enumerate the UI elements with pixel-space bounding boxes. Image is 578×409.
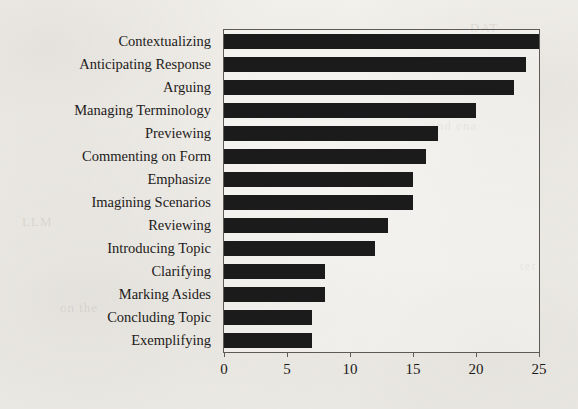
category-label: Concluding Topic	[107, 306, 211, 329]
bar	[224, 264, 325, 279]
x-axis-tick-label: 0	[220, 359, 228, 379]
category-label: Anticipating Response	[79, 53, 211, 76]
bar-row	[224, 306, 539, 329]
bar-row	[224, 53, 539, 76]
bar	[224, 57, 526, 72]
x-axis-tick-label: 10	[343, 359, 358, 379]
bar	[224, 80, 514, 95]
category-label: Arguing	[163, 76, 211, 99]
bar-row	[224, 283, 539, 306]
bar-row	[224, 329, 539, 352]
x-axis-tick-label: 20	[469, 359, 484, 379]
bar-row	[224, 214, 539, 237]
x-axis-tick-label: 25	[532, 359, 547, 379]
bar	[224, 126, 438, 141]
x-axis-tick	[287, 352, 288, 357]
bar-row	[224, 260, 539, 283]
bar	[224, 103, 476, 118]
bar	[224, 287, 325, 302]
x-axis-tick	[476, 352, 477, 357]
category-label: Marking Asides	[119, 283, 211, 306]
category-label: Contextualizing	[118, 30, 211, 53]
category-label: Introducing Topic	[107, 237, 211, 260]
bar-series	[224, 30, 539, 352]
x-axis-tick-label: 15	[406, 359, 421, 379]
x-axis-tick-label: 5	[283, 359, 291, 379]
category-label: Commenting on Form	[82, 145, 211, 168]
bar-row	[224, 145, 539, 168]
bar-row	[224, 168, 539, 191]
x-axis-tick	[413, 352, 414, 357]
bar-row	[224, 122, 539, 145]
category-label: Previewing	[145, 122, 211, 145]
bar	[224, 310, 312, 325]
x-axis-tick-labels: 0510152025	[0, 359, 578, 381]
category-label: Clarifying	[151, 260, 211, 283]
bar	[224, 241, 375, 256]
bar	[224, 34, 539, 49]
x-axis-tick	[224, 352, 225, 357]
bar-chart-figure: ContextualizingAnticipating ResponseArgu…	[0, 0, 578, 409]
category-label: Exemplifying	[131, 329, 211, 352]
bar	[224, 333, 312, 348]
bar-row	[224, 237, 539, 260]
category-label: Managing Terminology	[74, 99, 211, 122]
bar	[224, 218, 388, 233]
bar	[224, 149, 426, 164]
bar-row	[224, 76, 539, 99]
bar	[224, 195, 413, 210]
category-label: Imagining Scenarios	[91, 191, 211, 214]
bar-row	[224, 99, 539, 122]
bar	[224, 172, 413, 187]
x-axis-ticks	[224, 352, 540, 358]
bar-row	[224, 30, 539, 53]
x-axis-tick	[350, 352, 351, 357]
bar-row	[224, 191, 539, 214]
x-axis-tick	[539, 352, 540, 357]
category-axis-labels: ContextualizingAnticipating ResponseArgu…	[0, 30, 217, 352]
category-label: Reviewing	[148, 214, 211, 237]
category-label: Emphasize	[147, 168, 211, 191]
